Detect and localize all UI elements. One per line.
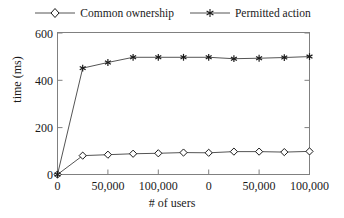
y-axis-tick-labels: 600 400 200 0 xyxy=(35,27,53,183)
x-tick-label: 100,000 xyxy=(290,179,329,193)
y-tick-label: 0 xyxy=(47,168,53,182)
plot-area-wrapper: 600 400 200 0 0 50,000 100,000 0 50,000 … xyxy=(0,0,344,218)
y-tick-label: 400 xyxy=(35,74,53,88)
y-axis-label: time (ms) xyxy=(10,35,25,125)
chart-figure: Common ownership Permitted action xyxy=(0,0,344,218)
x-tick-label: 0 xyxy=(55,179,61,193)
x-tick-label: 100,000 xyxy=(139,179,178,193)
x-tick-label: 0 xyxy=(206,179,212,193)
x-axis-label: # of users xyxy=(0,196,344,211)
x-tick-label: 50,000 xyxy=(91,179,124,193)
chart-plot: 600 400 200 0 0 50,000 100,000 0 50,000 … xyxy=(0,0,344,218)
x-tick-label: 50,000 xyxy=(243,179,276,193)
y-tick-label: 600 xyxy=(35,27,53,41)
y-tick-label: 200 xyxy=(35,121,53,135)
x-axis-tick-labels: 0 50,000 100,000 0 50,000 100,000 xyxy=(55,179,330,193)
